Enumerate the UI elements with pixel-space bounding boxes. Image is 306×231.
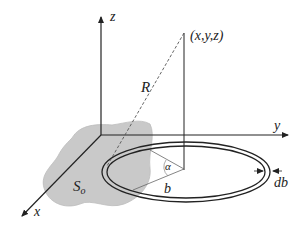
radius-b-label: b <box>164 181 171 196</box>
source-region-blob <box>43 121 152 206</box>
x-axis-label: x <box>33 204 41 219</box>
distance-R-label: R <box>140 79 150 95</box>
angle-alpha-label: α <box>165 160 171 172</box>
ring-width-db-label: db <box>274 175 288 190</box>
y-axis-label: y <box>272 118 281 133</box>
z-axis-label: z <box>109 9 116 24</box>
point-label: (x,y,z) <box>190 28 224 44</box>
diagram-canvas: z y x (x,y,z) R So α b db <box>0 0 306 231</box>
